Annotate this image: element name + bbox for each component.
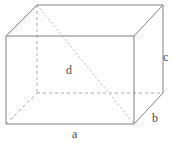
cuboid-figure: a b c d bbox=[0, 0, 174, 143]
cuboid-drawing bbox=[0, 0, 174, 143]
hidden-edges-group bbox=[6, 5, 163, 124]
space-diagonal-group bbox=[37, 5, 134, 124]
dimension-label-b: b bbox=[152, 112, 158, 124]
top-left-connector-edge bbox=[6, 5, 37, 36]
top-right-connector-edge bbox=[134, 5, 163, 36]
bottom-right-connector-edge bbox=[134, 93, 163, 124]
solid-edges-group bbox=[6, 5, 163, 124]
dimension-label-c: c bbox=[163, 51, 168, 63]
dimension-label-a: a bbox=[72, 128, 77, 140]
bottom-left-connector-edge bbox=[6, 93, 37, 124]
space-diagonal-d-line bbox=[37, 5, 134, 124]
dimension-label-d: d bbox=[66, 64, 72, 76]
